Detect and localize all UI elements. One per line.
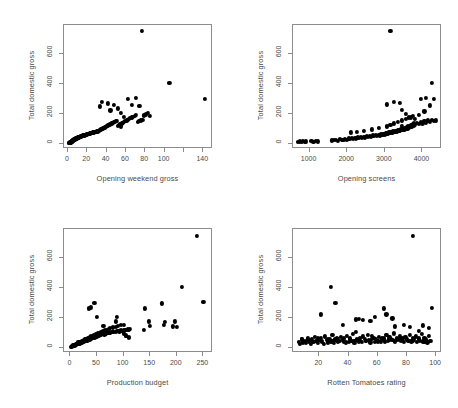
data-point <box>418 97 422 101</box>
data-point <box>417 113 421 117</box>
data-point <box>134 96 138 100</box>
data-point <box>173 319 177 323</box>
data-point <box>361 318 365 322</box>
x-tick-mark <box>435 352 436 356</box>
data-point <box>163 320 167 324</box>
data-point <box>203 97 207 101</box>
x-tick-label: 20 <box>82 155 90 162</box>
data-point <box>393 324 397 328</box>
x-tick-mark <box>384 148 385 152</box>
data-point <box>127 335 131 339</box>
x-tick-label: 250 <box>197 359 209 366</box>
y-tick-mark <box>59 317 63 318</box>
x-tick-label: 60 <box>373 359 381 366</box>
data-point <box>377 126 381 130</box>
y-tick-label: 400 <box>46 275 53 295</box>
x-tick-label: 20 <box>314 359 322 366</box>
y-tick-mark <box>288 287 292 288</box>
data-point <box>408 325 412 329</box>
x-axis-label: Production budget <box>63 378 212 387</box>
data-point <box>98 104 102 108</box>
data-point <box>432 97 436 101</box>
data-point <box>402 323 406 327</box>
x-tick-mark <box>144 148 145 152</box>
data-point <box>122 323 126 327</box>
x-tick-label: 100 <box>429 359 441 366</box>
data-point <box>354 330 358 334</box>
data-point <box>142 328 146 332</box>
x-tick-mark <box>202 352 203 356</box>
panel-production-budget: 0200400600050100150200250Production budg… <box>0 204 229 408</box>
y-tick-label: 0 <box>275 131 282 151</box>
x-tick-label: 1000 <box>301 155 317 162</box>
data-point <box>92 301 96 305</box>
data-point <box>115 315 119 319</box>
x-tick-mark <box>176 352 177 356</box>
data-point <box>148 114 152 118</box>
data-point <box>421 323 425 327</box>
y-tick-label: 0 <box>46 131 53 151</box>
x-tick-mark <box>421 148 422 152</box>
data-point <box>175 325 179 329</box>
data-point <box>427 326 431 330</box>
data-point <box>422 109 426 113</box>
y-tick-label: 600 <box>46 41 53 61</box>
data-point <box>100 100 104 104</box>
data-point <box>160 301 164 305</box>
data-point <box>430 306 434 310</box>
y-tick-label: 400 <box>46 71 53 91</box>
x-tick-label: 100 <box>117 359 129 366</box>
data-point <box>349 130 353 134</box>
data-point <box>128 327 132 331</box>
x-tick-label: 3000 <box>376 155 392 162</box>
data-point <box>341 323 345 327</box>
x-tick-label: 100 <box>158 155 170 162</box>
data-point <box>390 316 394 320</box>
y-tick-label: 600 <box>275 245 282 265</box>
x-tick-mark <box>348 352 349 356</box>
data-point <box>428 103 432 107</box>
data-point <box>362 128 366 132</box>
y-tick-label: 200 <box>275 101 282 121</box>
panel-opening-screens: 02004006001000200030004000Opening screen… <box>229 0 458 204</box>
y-tick-mark <box>59 347 63 348</box>
x-tick-mark <box>106 148 107 152</box>
y-tick-mark <box>59 143 63 144</box>
data-point <box>108 108 112 112</box>
data-point <box>428 339 432 343</box>
x-tick-mark <box>202 148 203 152</box>
x-tick-mark <box>149 352 150 356</box>
x-axis-label: Rotten Tomatoes rating <box>292 378 441 387</box>
data-point <box>370 127 374 131</box>
x-tick-mark <box>86 148 87 152</box>
panel-rotten-tomatoes-rating: 020040060020406080100Rotten Tomatoes rat… <box>229 204 458 408</box>
data-point <box>130 103 134 107</box>
y-tick-label: 400 <box>275 275 282 295</box>
y-axis-label: Total domestic gross <box>256 228 265 352</box>
x-tick-label: 40 <box>344 359 352 366</box>
data-point <box>388 29 392 33</box>
data-point <box>385 102 389 106</box>
y-tick-label: 600 <box>275 41 282 61</box>
data-point <box>126 97 130 101</box>
y-tick-label: 200 <box>275 305 282 325</box>
x-tick-mark <box>69 352 70 356</box>
x-tick-label: 60 <box>121 155 129 162</box>
y-tick-label: 200 <box>46 101 53 121</box>
data-point <box>105 101 109 105</box>
y-tick-label: 400 <box>275 71 282 91</box>
x-tick-label: 0 <box>67 359 71 366</box>
y-tick-mark <box>288 143 292 144</box>
x-tick-mark <box>346 148 347 152</box>
y-axis-label: Total domestic gross <box>27 24 36 148</box>
x-axis-label: Opening weekend gross <box>63 174 212 183</box>
data-point <box>411 234 415 238</box>
x-tick-mark <box>318 352 319 356</box>
data-point <box>316 139 320 143</box>
data-point <box>201 300 205 304</box>
x-tick-label: 140 <box>196 155 208 162</box>
x-tick-mark <box>96 352 97 356</box>
y-tick-mark <box>59 83 63 84</box>
y-tick-label: 200 <box>46 305 53 325</box>
x-tick-mark <box>67 148 68 152</box>
